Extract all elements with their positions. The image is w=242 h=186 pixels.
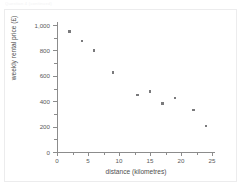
x-axis-line	[57, 152, 215, 153]
scatter-plot-figure: Question 4 (continued) 0510152025 020040…	[0, 0, 242, 186]
y-axis-title-wrapper: weekly rental price (£)	[10, 0, 22, 108]
x-tick-label: 0	[47, 157, 67, 164]
x-tick	[57, 152, 58, 156]
x-tick-label: 10	[109, 157, 129, 164]
data-point	[68, 30, 71, 33]
y-tick-label: 200	[16, 123, 50, 130]
y-minor-tick	[54, 89, 57, 90]
x-tick-label: 15	[140, 157, 160, 164]
data-point	[93, 49, 96, 52]
y-tick	[53, 50, 57, 51]
y-tick	[53, 76, 57, 77]
x-minor-tick	[135, 152, 136, 155]
data-point	[81, 40, 84, 43]
y-minor-tick	[54, 114, 57, 115]
x-tick	[150, 152, 151, 156]
y-minor-tick	[54, 63, 57, 64]
x-minor-tick	[73, 152, 74, 155]
x-tick-label: 25	[202, 157, 222, 164]
data-point	[136, 94, 139, 97]
x-tick	[119, 152, 120, 156]
data-point	[112, 71, 115, 74]
data-point	[149, 90, 152, 93]
y-tick	[53, 101, 57, 102]
x-minor-tick	[197, 152, 198, 155]
x-axis-title: distance (kilometres)	[57, 168, 215, 175]
y-minor-tick	[54, 139, 57, 140]
data-point	[161, 102, 164, 105]
x-tick-label: 5	[78, 157, 98, 164]
x-tick	[181, 152, 182, 156]
x-minor-tick	[166, 152, 167, 155]
y-tick	[53, 152, 57, 153]
y-tick	[53, 25, 57, 26]
data-point	[174, 97, 177, 100]
y-tick-label: 0	[16, 149, 50, 156]
x-tick-label: 20	[171, 157, 191, 164]
plot-area: 0510152025 02004006008001,000 distance (…	[0, 0, 242, 186]
y-axis-line	[57, 22, 58, 153]
x-tick	[212, 152, 213, 156]
y-axis-title: weekly rental price (£)	[10, 0, 17, 108]
x-tick	[88, 152, 89, 156]
x-minor-tick	[104, 152, 105, 155]
data-point	[205, 125, 208, 128]
y-tick	[53, 127, 57, 128]
data-point	[192, 109, 195, 112]
y-minor-tick	[54, 38, 57, 39]
